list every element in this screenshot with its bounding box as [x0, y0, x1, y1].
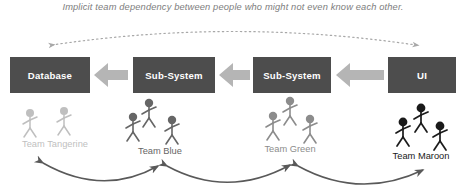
- flow-arrow-subsystem1-to-database: [94, 63, 128, 87]
- diagram-canvas: Implicit team dependency between people …: [0, 0, 466, 193]
- diagram-caption: Implicit team dependency between people …: [0, 2, 466, 12]
- box-subsystem-1-label: Sub-System: [145, 70, 202, 81]
- box-subsystem-2-label: Sub-System: [263, 70, 320, 81]
- team-figures-blue: [126, 99, 179, 144]
- team-label-maroon: Team Maroon: [366, 151, 466, 161]
- team-label-tangerine: Team Tangerine: [0, 139, 110, 149]
- team-figures-maroon: [396, 104, 447, 150]
- box-ui: UI: [388, 57, 456, 93]
- team-label-blue: Team Blue: [105, 146, 215, 156]
- box-subsystem-2: Sub-System: [253, 57, 331, 93]
- team-label-green: Team Green: [235, 144, 345, 154]
- team-link-tangerine-blue: [43, 163, 158, 181]
- team-link-blue-green: [167, 165, 290, 182]
- box-database-label: Database: [28, 70, 72, 81]
- box-database: Database: [10, 57, 90, 93]
- flow-arrow-ui-to-subsystem2: [336, 63, 384, 87]
- flow-arrow-subsystem2-to-subsystem1: [219, 63, 250, 87]
- box-subsystem-1: Sub-System: [133, 57, 215, 93]
- box-ui-label: UI: [417, 70, 427, 81]
- team-figures-green: [266, 97, 317, 143]
- team-figures-tangerine: [23, 107, 71, 137]
- team-link-green-maroon: [298, 166, 423, 184]
- implicit-dependency-arc: [52, 32, 416, 46]
